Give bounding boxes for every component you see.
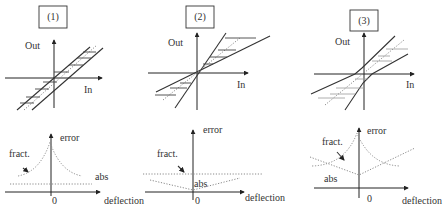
error-characteristics-figure: (1) Out In <box>0 0 444 210</box>
in-axis-label: In <box>237 79 245 90</box>
lower-bound-line <box>32 48 103 110</box>
abs-label: abs <box>95 171 108 182</box>
fract-label: fract. <box>9 148 30 159</box>
panel-2-label: (2) <box>194 11 206 23</box>
origin-label: 0 <box>52 195 57 206</box>
fract-pointer-arrow <box>178 166 184 172</box>
deflection-axis-label: deflection <box>402 195 442 206</box>
panel-1-label-box: (1) <box>39 6 67 28</box>
upper-bound-curve <box>311 36 395 94</box>
panel-3-label: (3) <box>358 15 370 27</box>
error-axis-label: error <box>60 132 80 143</box>
in-axis-label: In <box>406 79 414 90</box>
panel-3-label-box: (3) <box>350 10 378 31</box>
error-axis-label: error <box>203 124 223 135</box>
lower-bound-curve <box>345 54 408 110</box>
origin-label: 0 <box>195 195 200 206</box>
absolute-error-curve <box>310 148 415 175</box>
panel-1: (1) Out In <box>5 6 144 206</box>
in-axis-label: In <box>84 84 92 95</box>
panel-1-label: (1) <box>47 11 59 23</box>
deflection-axis-label: deflection <box>104 195 144 206</box>
deflection-axis-label: deflection <box>245 192 285 203</box>
fract-pointer-arrow <box>23 168 28 172</box>
out-axis-label: Out <box>335 36 350 47</box>
panel-1-transfer-plot: Out In <box>5 40 103 110</box>
panel-1-error-plot: error deflection 0 fract. abs <box>5 132 144 206</box>
abs-label: abs <box>194 178 207 189</box>
panel-2-transfer-plot: Out In <box>148 33 270 110</box>
panel-2-error-plot: error deflection 0 fract. abs <box>143 124 285 206</box>
fract-pointer-arrow <box>337 152 344 160</box>
origin-label: 0 <box>367 193 372 204</box>
abs-label: abs <box>324 173 337 184</box>
panel-3-error-plot: error deflection 0 fract. abs <box>310 125 442 206</box>
out-axis-label: Out <box>168 37 183 48</box>
panel-2: (2) Out In error deflection <box>143 6 285 206</box>
panel-3: (3) Out In error deflection <box>310 10 442 206</box>
panel-3-transfer-plot: Out In <box>311 33 414 110</box>
out-axis-label: Out <box>25 40 40 51</box>
fract-label: fract. <box>322 136 343 147</box>
error-axis-label: error <box>367 125 387 136</box>
fract-label: fract. <box>157 148 178 159</box>
panel-2-label-box: (2) <box>186 6 214 28</box>
